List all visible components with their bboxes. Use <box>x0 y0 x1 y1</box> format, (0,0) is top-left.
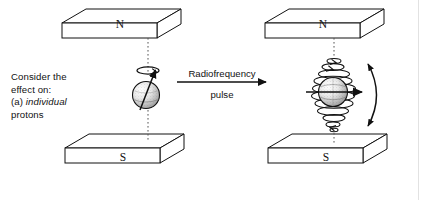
caption-line-3: (a) individual <box>11 96 67 109</box>
left-proton <box>133 67 160 110</box>
caption-line-3-italic: individual <box>26 96 67 107</box>
right-edge-rule <box>418 0 419 200</box>
caption-line-3-prefix: (a) <box>11 96 23 107</box>
left-north-pole-label: N <box>100 18 140 30</box>
rf-pulse-label-bottom: pulse <box>176 89 268 100</box>
caption-text: Consider the effect on: (a) individual p… <box>11 71 67 121</box>
right-south-pole-label: S <box>306 151 346 163</box>
left-magnet-assembly <box>62 9 184 163</box>
caption-line-4: protons <box>11 109 67 122</box>
nmr-figure: Consider the effect on: (a) individual p… <box>0 0 422 200</box>
rf-pulse-label-top: Radiofrequency <box>176 68 268 79</box>
caption-line-1: Consider the <box>11 71 67 84</box>
caption-line-2: effect on: <box>11 84 67 97</box>
right-magnet-assembly <box>265 9 387 163</box>
left-south-pole-label: S <box>103 151 143 163</box>
right-north-pole-label: N <box>303 18 343 30</box>
right-motion-arc <box>368 64 377 126</box>
left-precession-arrowhead <box>151 69 158 74</box>
